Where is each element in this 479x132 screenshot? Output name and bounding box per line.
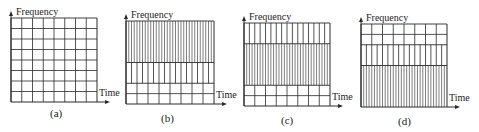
time-axis-label: Time <box>449 92 470 103</box>
frequency-axis-label: Frequency <box>366 12 408 23</box>
panel-d-variable-allocation: FrequencyTime(d) <box>0 0 479 132</box>
panel-caption: (d) <box>398 115 411 127</box>
